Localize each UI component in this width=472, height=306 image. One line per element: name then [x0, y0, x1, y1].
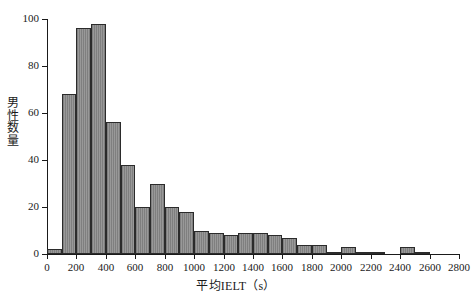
histogram-bar	[91, 24, 106, 254]
histogram-bar	[238, 233, 253, 254]
plot-area	[47, 19, 459, 254]
x-axis-tick	[106, 255, 107, 259]
histogram-bar	[194, 231, 209, 255]
x-axis-title: 平均IELT（s）	[0, 279, 472, 293]
histogram-bar	[341, 247, 356, 254]
x-axis-tick	[253, 255, 254, 259]
histogram-bar	[150, 184, 165, 255]
x-axis-tick	[165, 255, 166, 259]
x-axis-tick	[282, 255, 283, 259]
y-axis-tick-label: 100	[0, 13, 39, 24]
histogram-bar	[209, 233, 224, 254]
y-axis-tick-label: 80	[0, 60, 39, 71]
x-axis-tick	[47, 255, 48, 259]
histogram-bar	[165, 207, 180, 254]
histogram-bar	[179, 212, 194, 254]
histogram-bar	[135, 207, 150, 254]
x-axis-tick	[135, 255, 136, 259]
histogram-chart: 男性数量 020406080100 0200400600800100012001…	[0, 0, 472, 306]
histogram-bar	[356, 252, 371, 254]
y-axis-title: 男性数量	[4, 96, 18, 146]
x-axis-tick	[430, 255, 431, 259]
x-axis-tick	[400, 255, 401, 259]
histogram-bar	[62, 94, 77, 254]
histogram-bar	[312, 245, 327, 254]
x-axis-tick	[76, 255, 77, 259]
histogram-bar	[415, 252, 430, 254]
x-axis-tick	[312, 255, 313, 259]
histogram-bar	[224, 235, 239, 254]
x-axis-tick	[224, 255, 225, 259]
x-axis-tick-label: 2800	[439, 261, 472, 273]
histogram-bar	[253, 233, 268, 254]
histogram-bar	[47, 249, 62, 254]
x-axis-tick	[371, 255, 372, 259]
y-axis-tick-label: 60	[0, 107, 39, 118]
histogram-bar	[106, 122, 121, 254]
histogram-bar	[327, 252, 342, 254]
y-axis-tick-label: 40	[0, 154, 39, 165]
y-axis-tick-label: 20	[0, 201, 39, 212]
bars-layer	[47, 19, 459, 254]
y-axis-tick-label: 0	[0, 248, 39, 259]
histogram-bar	[121, 165, 136, 254]
histogram-bar	[282, 238, 297, 254]
x-axis-tick	[341, 255, 342, 259]
x-axis-tick	[459, 255, 460, 259]
histogram-bar	[268, 235, 283, 254]
histogram-bar	[371, 252, 386, 254]
histogram-bar	[76, 28, 91, 254]
histogram-bar	[400, 247, 415, 254]
histogram-bar	[297, 245, 312, 254]
x-axis-tick	[194, 255, 195, 259]
